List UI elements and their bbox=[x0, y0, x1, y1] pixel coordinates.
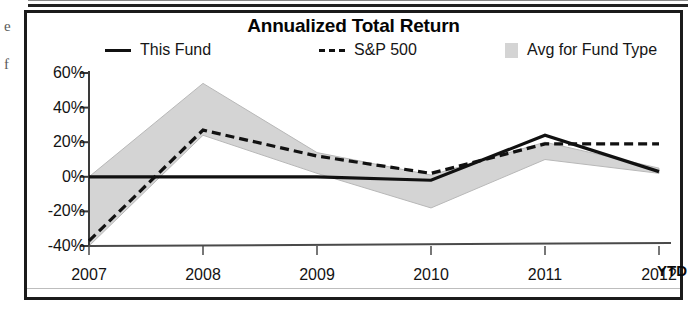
y-axis-tick-label: 20% bbox=[29, 133, 85, 151]
series-band-avg-for-fund-type bbox=[89, 83, 659, 246]
y-axis-tick-label: 40% bbox=[29, 99, 85, 117]
y-axis-tick-label: 60% bbox=[29, 64, 85, 82]
panel-divider-rule bbox=[28, 0, 688, 7]
x-axis-tick-label: 2009 bbox=[299, 266, 335, 284]
scan-mark-lower: f bbox=[4, 56, 9, 73]
scan-mark-upper: e bbox=[4, 18, 11, 35]
x-axis-tick-label: 2007 bbox=[71, 266, 107, 284]
y-axis-tick-label: 0% bbox=[29, 168, 85, 186]
x-axis-tick-label: 2011 bbox=[528, 266, 562, 284]
y-axis-tick-label: -20% bbox=[29, 202, 85, 220]
plot-svg bbox=[27, 13, 686, 303]
card-bottom-rule bbox=[27, 288, 680, 289]
annualized-total-return-card: Annualized Total Return This Fund S&P 50… bbox=[24, 10, 683, 300]
x-axis-tick-label: 2010 bbox=[413, 266, 449, 284]
y-axis-tick-labels: 60%40%20%0%-20%-40% bbox=[29, 13, 85, 303]
y-axis-tick-label: -40% bbox=[29, 237, 85, 255]
x-axis-ytd-label: YTD bbox=[657, 262, 687, 279]
x-axis-spine bbox=[89, 243, 671, 246]
x-axis-tick-label: 2008 bbox=[185, 266, 221, 284]
plot-area: 60%40%20%0%-20%-40% 20072008200920102011… bbox=[27, 13, 686, 303]
